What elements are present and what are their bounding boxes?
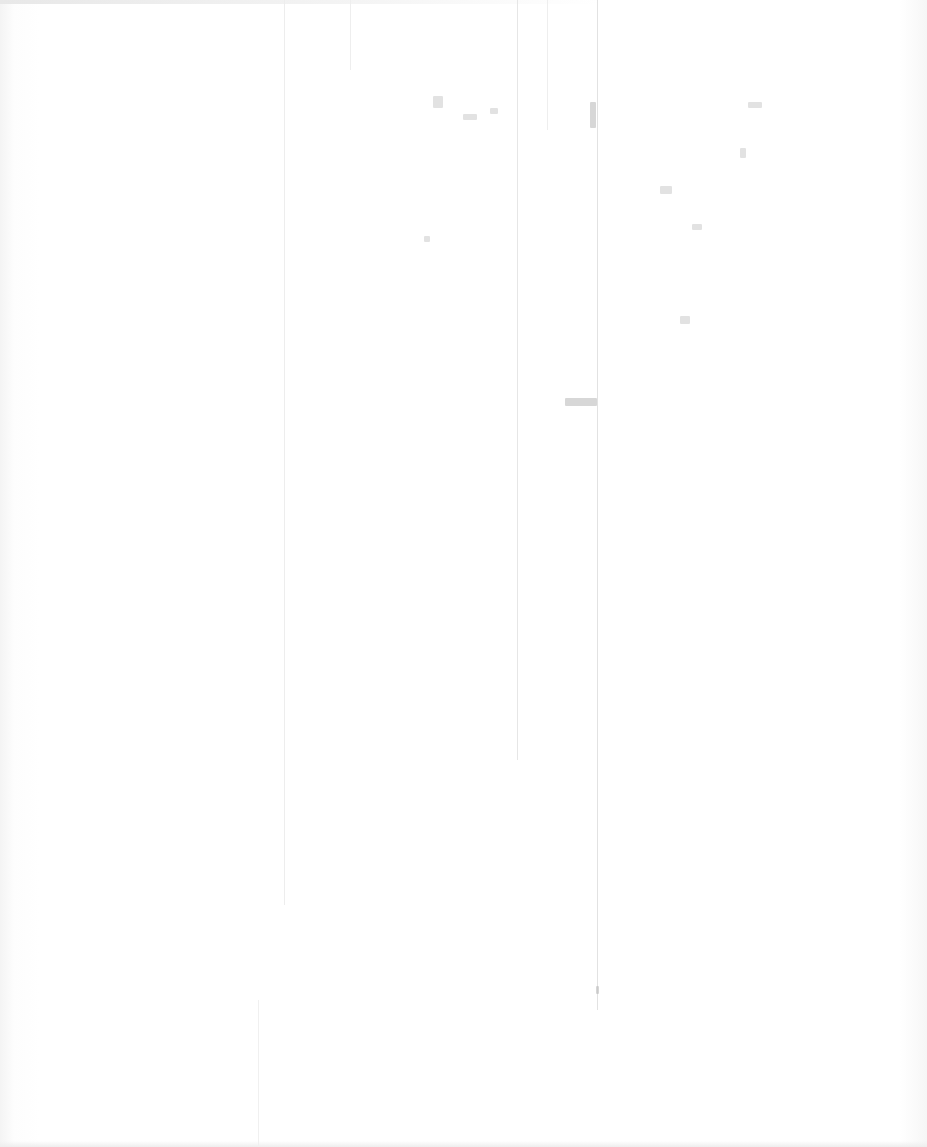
bleed-through-artifact (596, 986, 599, 994)
bleed-through-artifact (748, 102, 762, 108)
scan-line (258, 1000, 259, 1147)
bleed-through-artifact (565, 398, 597, 406)
bleed-through-artifact (740, 148, 746, 158)
bleed-through-artifact (490, 108, 498, 114)
scan-line (547, 0, 548, 130)
bleed-through-artifact (424, 236, 430, 242)
scan-line (517, 0, 518, 760)
scan-line (597, 0, 598, 1010)
bleed-through-artifact (463, 114, 477, 120)
scan-line (350, 0, 351, 70)
bleed-through-artifact (590, 102, 596, 128)
bleed-through-artifact (680, 316, 690, 324)
scan-edge-top (0, 0, 600, 4)
bleed-through-artifact (660, 186, 672, 194)
scan-edge-bottom (0, 1141, 927, 1147)
bleed-through-artifact (692, 224, 702, 230)
scan-line (284, 0, 285, 905)
bleed-through-artifact (433, 96, 443, 108)
blank-scanned-page (0, 0, 927, 1147)
